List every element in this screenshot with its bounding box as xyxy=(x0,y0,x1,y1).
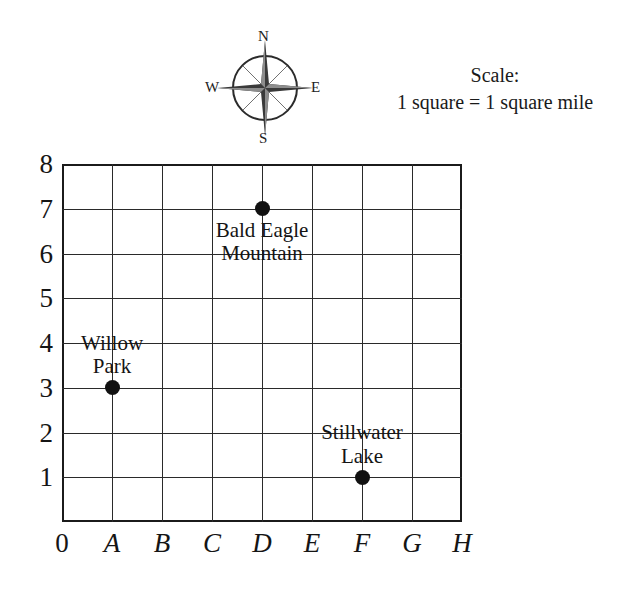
compass-label-west: W xyxy=(205,80,219,95)
y-axis-label-7: 7 xyxy=(40,195,54,222)
grid-hline xyxy=(62,477,462,478)
grid-hline xyxy=(62,388,462,389)
compass-label-south: S xyxy=(259,131,267,146)
map-marker-a3[interactable] xyxy=(105,380,120,395)
scale-description: 1 square = 1 square mile xyxy=(355,89,635,116)
grid-hline xyxy=(62,254,462,255)
y-axis-label-8: 8 xyxy=(40,151,54,178)
grid-hline xyxy=(62,433,462,434)
compass-label-east: E xyxy=(311,80,320,95)
x-axis-label-A: A xyxy=(104,530,121,557)
x-axis-label-F: F xyxy=(354,530,371,557)
y-axis-label-4: 4 xyxy=(40,330,54,357)
y-axis-label-6: 6 xyxy=(40,240,54,267)
x-axis-label-D: D xyxy=(252,530,272,557)
map-marker-d7[interactable] xyxy=(255,201,270,216)
grid-hline xyxy=(62,298,462,299)
x-axis-label-C: C xyxy=(203,530,221,557)
scale-title: Scale: xyxy=(355,62,635,89)
map-marker-f1[interactable] xyxy=(355,470,370,485)
y-axis-label-2: 2 xyxy=(40,419,54,446)
x-axis-label-origin: 0 xyxy=(55,530,69,557)
map-grid: 87654321 0ABCDEFGH WillowParkBald EagleM… xyxy=(62,164,462,522)
x-axis-label-E: E xyxy=(304,530,321,557)
scale-legend: Scale: 1 square = 1 square mile xyxy=(355,62,635,116)
y-axis-label-3: 3 xyxy=(40,374,54,401)
y-axis-label-1: 1 xyxy=(40,464,54,491)
x-axis-label-G: G xyxy=(402,530,422,557)
y-axis-label-5: 5 xyxy=(40,285,54,312)
x-axis-label-B: B xyxy=(154,530,171,557)
x-axis-label-H: H xyxy=(452,530,472,557)
compass-rose: N S W E xyxy=(205,28,325,148)
grid-hline xyxy=(62,343,462,344)
compass-label-north: N xyxy=(258,29,269,44)
